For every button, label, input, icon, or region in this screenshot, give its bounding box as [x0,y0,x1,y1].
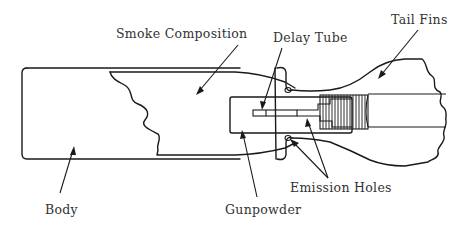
leader-arrows [60,30,418,197]
delay-tube [253,99,352,127]
label-smoke-composition: Smoke Composition [116,26,247,41]
label-body: Body [45,202,79,217]
label-gunpowder: Gunpowder [225,202,301,217]
smoke-device-diagram: Smoke Composition Delay Tube Tail Fins B… [0,0,467,229]
tail-fins [292,59,446,166]
threaded-connector [320,95,368,129]
gunpowder-chamber [230,97,352,133]
label-delay-tube: Delay Tube [273,30,348,45]
smoke-composition-region [110,72,295,155]
label-tail-fins: Tail Fins [391,12,448,27]
label-emission-holes: Emission Holes [290,180,392,195]
